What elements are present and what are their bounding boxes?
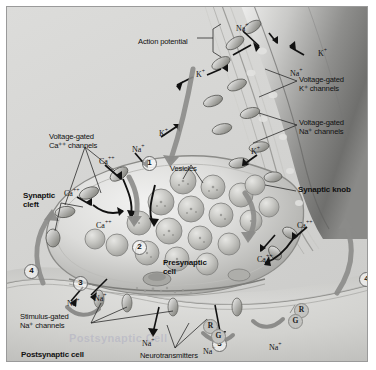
step-marker-4: 4 <box>24 264 39 279</box>
ion-charge: + <box>278 341 281 347</box>
ion-symbol: Ca <box>297 221 306 230</box>
receptor-g-marker: G <box>288 314 303 329</box>
ion-symbol: Na <box>269 343 278 352</box>
label-stimulus-gated-na-channels: Stimulus-gated Na⁺ channels <box>20 313 69 330</box>
ion-charge: ++ <box>105 219 112 225</box>
ion-label-ca: Ca++ <box>297 219 312 230</box>
ion-charge: + <box>165 127 168 133</box>
ion-label-ca: Ca++ <box>96 219 111 230</box>
label-action-potential: Action potential <box>138 38 188 47</box>
ion-charge: ++ <box>108 155 115 161</box>
figure-canvas: Action potentialVoltage-gated K⁺ channel… <box>0 0 376 370</box>
ion-symbol: Na <box>290 69 299 78</box>
ion-label-ca: Ca++ <box>99 155 114 166</box>
label-presynaptic-cell: Presynaptic cell <box>163 259 207 277</box>
label-postsynaptic-cell: Postsynaptic cell <box>21 351 84 360</box>
ion-symbol: Na <box>132 145 141 154</box>
ion-charge: + <box>257 145 260 151</box>
ion-charge: ++ <box>306 219 313 225</box>
label-voltage-gated-k-channels: Voltage-gated K⁺ channels <box>299 76 344 93</box>
ion-symbol: Na <box>203 347 212 356</box>
ion-label-ca: Ca++ <box>257 253 272 264</box>
step-marker-3: 3 <box>73 276 88 291</box>
ion-symbol: Na <box>67 299 76 308</box>
ion-label-na: Na+ <box>132 143 145 154</box>
ion-charge: + <box>76 297 79 303</box>
ion-charge: ++ <box>73 187 80 193</box>
ion-label-na: Na+ <box>94 292 107 303</box>
watermark-text: Postsynaptic Cell <box>69 332 168 344</box>
receptor-g-marker: G <box>211 329 226 344</box>
ion-symbol: Na <box>94 294 103 303</box>
step-marker-1: 1 <box>142 156 157 171</box>
label-neurotransmitters: Neurotransmitters <box>140 352 198 361</box>
step-marker-2: 2 <box>132 240 147 255</box>
ion-charge: ++ <box>266 253 273 259</box>
ion-charge: + <box>141 143 144 149</box>
ion-label-na: Na+ <box>290 67 303 78</box>
ion-symbol: Ca <box>257 255 266 264</box>
ion-charge: + <box>324 47 327 53</box>
ion-symbol: Ca <box>99 157 108 166</box>
ion-symbol: Na <box>236 24 245 33</box>
ion-charge: + <box>245 22 248 28</box>
label-voltage-gated-na-channels: Voltage-gated Na⁺ channels <box>299 119 344 136</box>
label-synaptic-cleft: Synaptic cleft <box>23 192 55 210</box>
ion-label-k: K+ <box>159 127 168 138</box>
ion-symbol: Ca <box>96 221 105 230</box>
diagram-frame: Action potentialVoltage-gated K⁺ channel… <box>6 6 368 362</box>
label-synaptic-knob: Synaptic knob <box>298 186 351 195</box>
ion-charge: + <box>202 68 205 74</box>
step-marker-4: 4 <box>359 272 368 287</box>
ion-label-na: Na+ <box>67 297 80 308</box>
ion-label-na: Na+ <box>269 341 282 352</box>
ion-label-na: Na+ <box>236 22 249 33</box>
ion-symbol: Ca <box>64 189 73 198</box>
ion-label-k: K+ <box>318 47 327 58</box>
ion-charge: + <box>103 292 106 298</box>
ion-label-k: K+ <box>251 145 260 156</box>
ion-charge: + <box>299 67 302 73</box>
label-vesicles: Vesicles <box>170 165 197 174</box>
label-voltage-gated-ca-channels: Voltage-gated Ca⁺⁺ channels <box>49 133 97 150</box>
ion-label-ca: Ca++ <box>64 187 79 198</box>
ion-label-k: K+ <box>196 68 205 79</box>
